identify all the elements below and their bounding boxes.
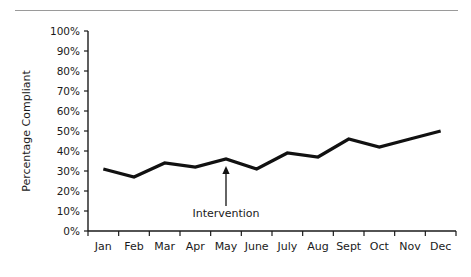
y-tick-label: 100% [50,25,80,37]
y-tick-label: 40% [57,145,80,157]
x-tick-label: Oct [370,240,390,253]
line-chart: 0%10%20%30%40%50%60%70%80%90%100% JanFeb… [0,0,471,277]
x-tick-labels: JanFebMarAprMayJuneJulyAugSeptOctNovDec [94,240,451,253]
y-tick-label: 0% [63,225,80,237]
annotation-arrow-head [222,166,229,174]
x-axis-group: JanFebMarAprMayJuneJulyAugSeptOctNovDec [88,231,456,253]
x-tick-marks [88,231,456,236]
series-line-percentage-compliant [103,131,440,177]
y-tick-labels: 0%10%20%30%40%50%60%70%80%90%100% [50,25,80,237]
y-tick-label: 50% [57,125,80,137]
annotation-intervention: Intervention [192,166,259,220]
x-tick-label: Sept [336,240,362,253]
annotation-label: Intervention [192,207,259,220]
y-axis-group: 0%10%20%30%40%50%60%70%80%90%100% [50,25,88,237]
x-tick-label: Mar [154,240,175,253]
x-tick-label: Apr [186,240,206,253]
y-tick-label: 80% [57,65,80,77]
x-tick-label: Dec [430,240,451,253]
chart-figure: 0%10%20%30%40%50%60%70%80%90%100% JanFeb… [0,0,471,277]
y-tick-label: 10% [57,205,80,217]
y-tick-label: 70% [57,85,80,97]
x-tick-label: June [244,240,269,253]
x-tick-label: Feb [124,240,143,253]
y-axis-title: Percentage Compliant [20,70,33,192]
y-tick-label: 60% [57,105,80,117]
x-tick-label: May [215,240,238,253]
x-tick-label: Nov [399,240,421,253]
y-tick-label: 20% [57,185,80,197]
x-tick-label: July [276,240,297,253]
y-tick-label: 30% [57,165,80,177]
y-tick-label: 90% [57,45,80,57]
x-tick-label: Aug [307,240,328,253]
x-tick-label: Jan [94,240,112,253]
